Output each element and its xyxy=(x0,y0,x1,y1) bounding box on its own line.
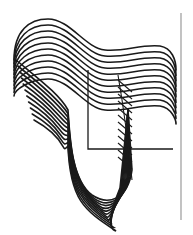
fold-line xyxy=(25,90,128,214)
ribbon-drawing xyxy=(0,0,193,235)
fold-line xyxy=(34,110,128,231)
artwork-canvas xyxy=(0,0,193,235)
